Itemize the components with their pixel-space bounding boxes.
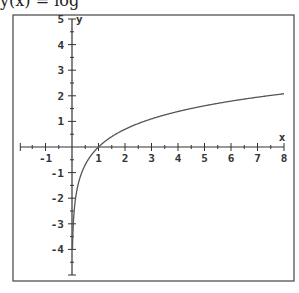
- chart: -112345678x54321-1-2-3-4y: [0, 0, 299, 293]
- x-tick-label: 4: [175, 152, 182, 165]
- x-tick-label: 2: [122, 152, 129, 165]
- y-axis-label: y: [76, 13, 83, 26]
- y-tick-label: 2: [57, 90, 64, 103]
- y-tick-label: -1: [51, 167, 65, 180]
- x-tick-label: 1: [95, 152, 102, 165]
- y-tick-label: 5: [57, 13, 64, 26]
- x-tick-label: 5: [201, 152, 208, 165]
- y-tick-label: -3: [51, 218, 64, 231]
- x-tick-label: 6: [228, 152, 235, 165]
- y-tick-label: -2: [51, 192, 64, 205]
- x-tick-label: 8: [281, 152, 288, 165]
- x-tick-label: 7: [254, 152, 261, 165]
- y-tick-label: 3: [57, 64, 64, 77]
- x-axis-label: x: [279, 131, 286, 144]
- log-curve: [72, 94, 284, 250]
- y-tick-label: 1: [57, 115, 64, 128]
- x-tick-label: 3: [148, 152, 155, 165]
- y-tick-label: 4: [57, 39, 64, 52]
- x-tick-label: -1: [39, 152, 53, 165]
- y-tick-label: -4: [51, 243, 65, 256]
- plot-frame: [13, 15, 294, 281]
